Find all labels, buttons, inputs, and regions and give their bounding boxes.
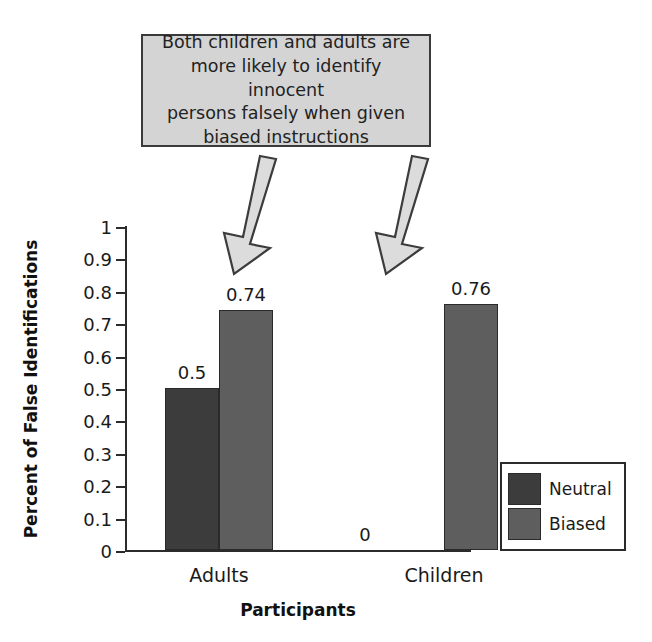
y-tick-mark — [116, 421, 125, 423]
y-tick-mark — [116, 227, 125, 229]
legend-item-biased[interactable]: Biased — [508, 508, 618, 540]
bar-adults-neutral[interactable] — [165, 388, 219, 550]
y-axis-line — [125, 226, 127, 552]
chart-legend: Neutral Biased — [500, 462, 626, 551]
bar-adults-biased[interactable] — [219, 310, 273, 550]
y-tick-label: 0.8 — [83, 281, 112, 302]
legend-item-neutral[interactable]: Neutral — [508, 473, 618, 505]
y-tick-label: 0.4 — [83, 411, 112, 432]
y-tick-mark — [116, 324, 125, 326]
y-tick-mark — [116, 519, 125, 521]
bar-children-biased[interactable] — [444, 304, 498, 550]
y-tick-label: 0.5 — [83, 379, 112, 400]
y-tick-label: 0 — [101, 541, 112, 562]
legend-swatch-biased — [508, 508, 541, 540]
bar-value-label-children-neutral: 0 — [359, 524, 370, 545]
y-tick-mark — [116, 389, 125, 391]
category-label-children: Children — [404, 564, 483, 586]
annotation-callout-box: Both children and adults are more likely… — [141, 34, 431, 147]
legend-label-biased: Biased — [549, 514, 606, 534]
y-tick-mark — [116, 292, 125, 294]
bar-value-label-adults-biased: 0.74 — [226, 284, 266, 305]
y-tick-mark — [116, 551, 125, 553]
y-tick-label: 0.6 — [83, 346, 112, 367]
y-tick-mark — [116, 259, 125, 261]
y-tick-mark — [116, 486, 125, 488]
y-tick-label: 1 — [101, 217, 112, 238]
x-axis-line — [125, 550, 471, 552]
annotation-callout-text: Both children and adults are more likely… — [143, 31, 429, 149]
bar-value-label-adults-neutral: 0.5 — [178, 362, 207, 383]
y-tick-mark — [116, 454, 125, 456]
category-label-adults: Adults — [189, 564, 248, 586]
y-tick-label: 0.2 — [83, 476, 112, 497]
legend-label-neutral: Neutral — [549, 479, 612, 499]
y-tick-label: 0.3 — [83, 443, 112, 464]
bar-value-label-children-biased: 0.76 — [451, 278, 491, 299]
y-tick-mark — [116, 357, 125, 359]
y-axis-title-text: Percent of False Identifications — [21, 240, 41, 539]
y-tick-label: 0.1 — [83, 508, 112, 529]
plot-area: 00.10.20.30.40.50.60.70.80.91 0.50.7400.… — [125, 226, 471, 552]
legend-swatch-neutral — [508, 473, 541, 505]
x-axis-title: Participants — [125, 600, 471, 620]
y-axis-title: Percent of False Identifications — [18, 226, 44, 552]
y-tick-label: 0.9 — [83, 249, 112, 270]
y-tick-label: 0.7 — [83, 314, 112, 335]
